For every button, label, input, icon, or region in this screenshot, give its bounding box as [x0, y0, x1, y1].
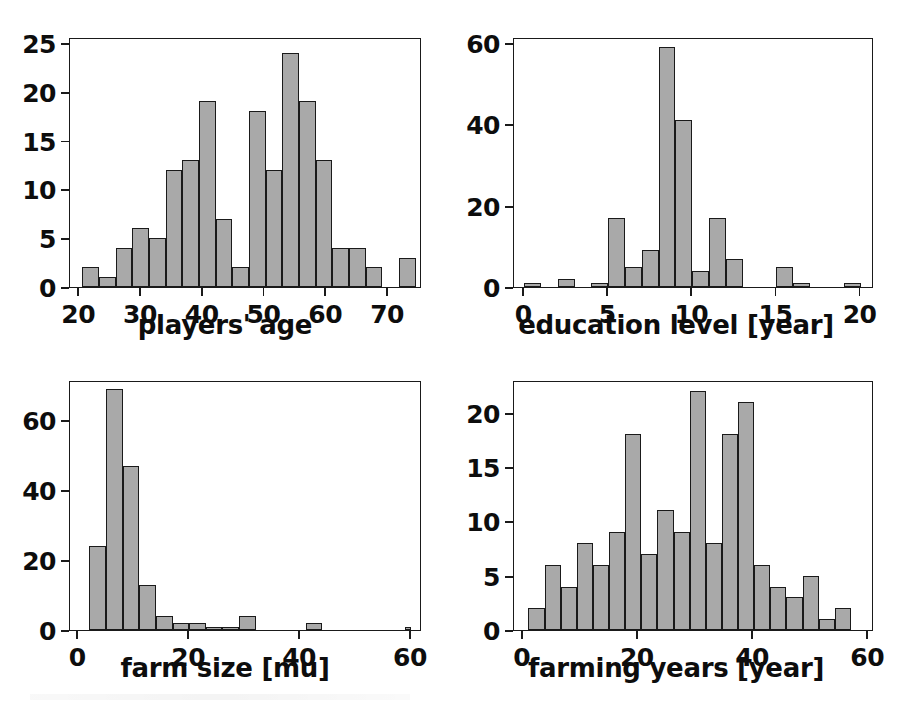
histogram-bar — [182, 160, 199, 287]
histogram-bar — [316, 160, 333, 287]
x-tick-mark — [690, 288, 692, 296]
histogram-bar — [123, 466, 140, 630]
histogram-bar — [99, 277, 116, 287]
y-tick-label: 0 — [39, 617, 56, 646]
panel-farming-years: 05101520 0204060 farming years [year] — [451, 353, 901, 705]
x-tick-mark — [298, 631, 300, 639]
histogram-bar — [149, 238, 166, 287]
plot-area-farm-size — [69, 381, 421, 631]
y-tick-mark — [505, 124, 513, 126]
histogram-bar — [819, 619, 835, 630]
x-tick-mark — [201, 288, 203, 296]
histogram-bar — [692, 271, 709, 287]
histogram-bar — [770, 587, 786, 630]
histogram-bar — [189, 623, 206, 630]
histogram-bar — [232, 267, 249, 287]
histogram-bar — [132, 228, 149, 287]
y-tick-label: 10 — [22, 176, 56, 205]
x-tick-mark — [77, 288, 79, 296]
x-tick-mark — [324, 288, 326, 296]
histogram-bar — [524, 283, 541, 287]
y-tick-mark — [505, 467, 513, 469]
y-tick-label: 20 — [22, 78, 56, 107]
histogram-bar — [561, 587, 577, 630]
y-tick-mark — [61, 189, 69, 191]
y-tick-label: 20 — [466, 192, 500, 221]
histogram-bar — [709, 218, 726, 287]
y-tick-mark — [505, 576, 513, 578]
bars-farm-size — [70, 382, 420, 630]
histogram-bar — [249, 111, 266, 287]
y-tick-mark — [505, 630, 513, 632]
y-tick-mark — [505, 206, 513, 208]
y-tick-mark — [61, 287, 69, 289]
histogram-bar — [625, 267, 642, 287]
panel-education-level: 0204060 05101520 education level [year] — [451, 0, 901, 352]
plot-area-education-level — [513, 38, 873, 288]
histogram-bar — [366, 267, 383, 287]
y-tick-label: 40 — [466, 111, 500, 140]
y-tick-label: 5 — [483, 562, 500, 591]
xlabel-education-level: education level [year] — [451, 310, 901, 340]
histogram-bar — [641, 554, 657, 630]
histogram-bar — [306, 623, 323, 630]
histogram-bar — [844, 283, 861, 287]
x-tick-mark — [409, 631, 411, 639]
histogram-bar — [659, 47, 676, 287]
bars-farming-years — [514, 382, 872, 630]
histogram-bar — [106, 389, 123, 630]
x-tick-mark — [263, 288, 265, 296]
y-tick-label: 60 — [22, 407, 56, 436]
histogram-bar — [754, 565, 770, 630]
x-tick-mark — [386, 288, 388, 296]
y-tick-label: 0 — [483, 274, 500, 303]
histogram-bar — [239, 616, 256, 630]
histogram-bar — [82, 267, 99, 287]
y-tick-mark — [505, 413, 513, 415]
histogram-bar — [675, 120, 692, 287]
y-tick-mark — [61, 238, 69, 240]
histogram-bar — [706, 543, 722, 630]
y-tick-label: 15 — [466, 453, 500, 482]
histogram-bar — [674, 532, 690, 630]
y-tick-mark — [505, 287, 513, 289]
y-tick-mark — [61, 92, 69, 94]
histogram-bar — [173, 623, 190, 630]
bars-players-age — [70, 39, 420, 287]
xlabel-farm-size: farm size [mu] — [0, 653, 450, 683]
y-tick-label: 20 — [22, 547, 56, 576]
x-tick-mark — [751, 631, 753, 639]
histogram-bar — [738, 402, 754, 630]
histogram-bar — [776, 267, 793, 287]
x-tick-mark — [139, 288, 141, 296]
page-artifact — [30, 694, 410, 700]
y-tick-label: 20 — [466, 399, 500, 428]
x-tick-mark — [187, 631, 189, 639]
histogram-bar — [690, 391, 706, 630]
histogram-bar — [577, 543, 593, 630]
histogram-bar — [282, 53, 299, 287]
plot-area-farming-years — [513, 381, 873, 631]
xlabel-players-age: players' age — [0, 310, 450, 340]
x-tick-mark — [521, 631, 523, 639]
y-tick-mark — [505, 521, 513, 523]
x-tick-mark — [522, 288, 524, 296]
x-tick-mark — [866, 631, 868, 639]
y-tick-label: 0 — [39, 274, 56, 303]
y-tick-mark — [61, 630, 69, 632]
histogram-bar — [139, 585, 156, 630]
histogram-bar — [266, 170, 283, 287]
panel-players-age: 0510152025 203040506070 players' age — [0, 0, 450, 352]
histogram-bar — [835, 608, 851, 630]
x-tick-mark — [859, 288, 861, 296]
y-tick-label: 40 — [22, 477, 56, 506]
histogram-bar — [609, 532, 625, 630]
histogram-bar — [89, 546, 106, 630]
y-tick-label: 15 — [22, 127, 56, 156]
histogram-bar — [166, 170, 183, 287]
histogram-bar — [399, 258, 416, 287]
bars-education-level — [514, 39, 872, 287]
histogram-bar — [332, 248, 349, 287]
y-tick-mark — [61, 43, 69, 45]
xlabel-farming-years: farming years [year] — [451, 653, 901, 683]
